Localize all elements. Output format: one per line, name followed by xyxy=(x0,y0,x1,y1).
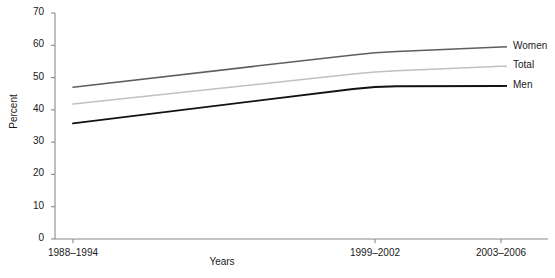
legend-label-total: Total xyxy=(513,59,534,70)
x-axis-title: Years xyxy=(192,256,252,267)
data-series xyxy=(73,47,501,124)
y-tick-label: 50 xyxy=(18,71,44,82)
x-axis-ticks xyxy=(73,239,501,243)
x-tick-label: 1988–1994 xyxy=(48,247,98,258)
series-line-men xyxy=(73,86,501,123)
y-tick-label: 40 xyxy=(18,103,44,114)
legend-connector-lines xyxy=(501,47,507,86)
y-tick-label: 10 xyxy=(18,200,44,211)
series-line-total xyxy=(73,66,501,104)
y-axis-ticks xyxy=(51,13,55,239)
axis-lines xyxy=(55,13,548,239)
y-tick-label: 60 xyxy=(18,38,44,49)
x-tick-label: 2003–2006 xyxy=(476,247,526,258)
legend-label-men: Men xyxy=(513,79,532,90)
legend-label-women: Women xyxy=(513,40,547,51)
y-tick-label: 0 xyxy=(18,232,44,243)
y-tick-label: 30 xyxy=(18,135,44,146)
plot-area xyxy=(0,0,555,278)
y-tick-label: 70 xyxy=(18,6,44,17)
line-chart: 010203040506070 1988–19941999–20022003–2… xyxy=(0,0,555,278)
y-axis-title: Percent xyxy=(8,77,19,147)
y-tick-label: 20 xyxy=(18,167,44,178)
x-tick-label: 1999–2002 xyxy=(350,247,400,258)
